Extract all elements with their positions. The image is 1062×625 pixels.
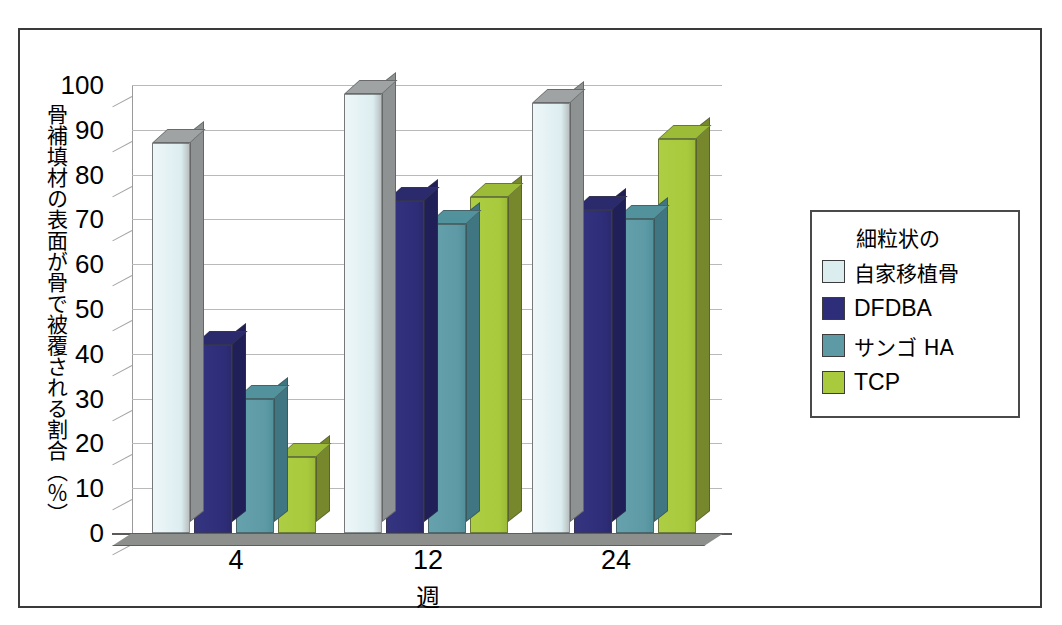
bar-side-face: [508, 175, 522, 522]
legend-item[interactable]: 自家移植骨: [822, 253, 1008, 290]
x-tick-label: 4: [191, 545, 281, 576]
bar-side-face: [232, 323, 246, 522]
bar-side-face: [570, 81, 584, 522]
y-axis-tick-labels: 0102030405060708090100: [0, 70, 104, 540]
gridline: [132, 175, 722, 176]
y-tick-label: 20: [0, 430, 104, 456]
legend-label: TCP: [854, 369, 900, 396]
y-tick-label: 50: [0, 296, 104, 322]
legend-label: DFDBA: [854, 295, 932, 322]
y-tick-label: 60: [0, 251, 104, 277]
y-tick-label: 0: [0, 520, 104, 546]
bar: [152, 143, 190, 533]
legend-swatch: [822, 334, 845, 357]
y-tick-label: 70: [0, 206, 104, 232]
plot-area: [112, 85, 722, 533]
y-tick-label: 10: [0, 475, 104, 501]
legend-swatch: [822, 260, 845, 283]
legend-item[interactable]: TCP: [822, 364, 1008, 401]
x-tick-label: 12: [383, 545, 473, 576]
bar-side-face: [612, 189, 626, 522]
y-tick-label: 90: [0, 117, 104, 143]
plot-left-flank: [112, 85, 133, 533]
x-tick-label: 24: [571, 545, 661, 576]
plot-floor: [112, 533, 724, 546]
bar-side-face: [274, 377, 288, 522]
y-tick-label: 30: [0, 386, 104, 412]
chart-figure: 骨補填材の表面が骨で被覆される割合（％） 0102030405060708090…: [0, 0, 1062, 625]
y-tick-label: 40: [0, 341, 104, 367]
legend-item[interactable]: サンゴ HA: [822, 327, 1008, 364]
bar-side-face: [424, 180, 438, 522]
bar-side-face: [654, 197, 668, 522]
gridline: [132, 85, 722, 86]
y-tick-label: 100: [0, 72, 104, 98]
legend-label: 自家移植骨: [854, 257, 959, 287]
legend-heading: 細粒状の: [856, 222, 1008, 252]
bar: [344, 94, 382, 533]
legend-item[interactable]: DFDBA: [822, 290, 1008, 327]
legend-swatch: [822, 371, 845, 394]
legend-swatch: [822, 297, 845, 320]
legend-items: 自家移植骨DFDBAサンゴ HATCP: [822, 253, 1008, 401]
gridline: [132, 130, 722, 131]
legend: 細粒状の 自家移植骨DFDBAサンゴ HATCP: [810, 210, 1020, 418]
bar-front-face: [344, 94, 382, 533]
bar-side-face: [190, 121, 204, 522]
bar-side-face: [466, 202, 480, 522]
y-tick-label: 80: [0, 162, 104, 188]
bar: [532, 103, 570, 533]
x-axis-title: 週: [383, 578, 473, 613]
legend-label: サンゴ HA: [854, 331, 954, 361]
bar-front-face: [152, 143, 190, 533]
bar-side-face: [382, 72, 396, 522]
bar-front-face: [532, 103, 570, 533]
bar-side-face: [696, 117, 710, 522]
